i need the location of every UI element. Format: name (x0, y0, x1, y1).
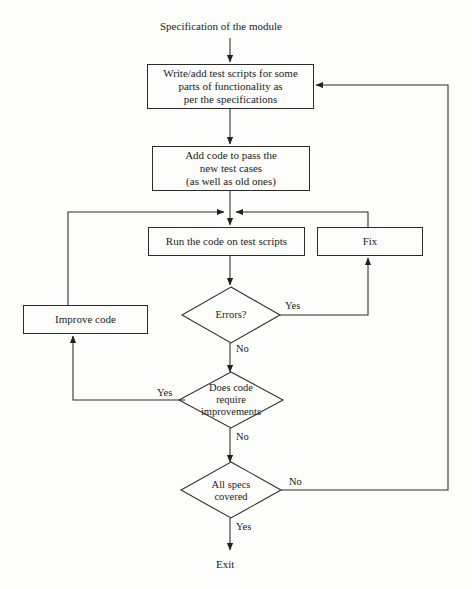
node-write-tests: Write/add test scripts for some parts of… (147, 64, 314, 109)
edge-label-improvements-no: No (236, 431, 249, 442)
edge-label-errors-no: No (236, 343, 249, 354)
node-write-tests-line1: Write/add test scripts for some (163, 67, 298, 80)
node-add-code: Add code to pass the new test cases (as … (152, 146, 310, 191)
node-add-code-line2: new test cases (185, 162, 277, 175)
node-add-code-line1: Add code to pass the (185, 149, 277, 162)
node-improve-code-line1: Improve code (52, 313, 119, 326)
shape-all-specs-diamond (181, 462, 281, 518)
node-improve-code: Improve code (23, 305, 148, 334)
node-fix-line1: Fix (360, 235, 381, 248)
node-write-tests-line2: parts of functionality as (163, 80, 298, 93)
edge-label-improvements-yes: Yes (157, 387, 172, 398)
shape-errors-diamond (182, 287, 280, 343)
node-run-code: Run the code on test scripts (148, 227, 305, 256)
node-fix: Fix (317, 227, 423, 256)
node-add-code-line3: (as well as old ones) (185, 175, 277, 188)
edge-label-specs-no: No (289, 476, 302, 487)
edge-label-specs-yes: Yes (236, 521, 251, 532)
flowchart-canvas: Specification of the module Write/add te… (0, 0, 472, 589)
shape-improvements-diamond (179, 372, 283, 428)
edge-fix-to-junction (236, 212, 368, 227)
node-run-code-line1: Run the code on test scripts (163, 235, 290, 248)
terminal-exit-label: Exit (216, 558, 234, 570)
edge-improve-to-junction (68, 212, 224, 305)
spec-start-label: Specification of the module (160, 20, 282, 32)
node-write-tests-line3: per the specifications (163, 93, 298, 106)
edge-label-errors-yes: Yes (285, 300, 300, 311)
